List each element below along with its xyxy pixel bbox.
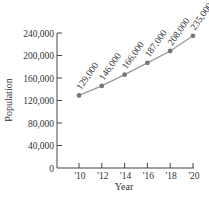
population-line-chart: 040,00080,000120,000160,000200,000240,00… bbox=[0, 0, 209, 197]
x-tick-label: '16 bbox=[143, 171, 154, 181]
y-tick-label: 40,000 bbox=[28, 141, 54, 151]
data-point-marker bbox=[99, 83, 104, 88]
x-tick-label: '14 bbox=[120, 171, 131, 181]
y-tick-label: 80,000 bbox=[28, 119, 54, 129]
data-point-marker bbox=[145, 60, 150, 65]
data-series: 129,000146,000166,000187,000208,000235,0… bbox=[74, 1, 209, 98]
data-point-marker bbox=[122, 72, 127, 77]
data-point-marker bbox=[77, 93, 82, 98]
x-tick-label: '12 bbox=[97, 171, 108, 181]
y-axis: 040,00080,000120,000160,000200,000240,00… bbox=[23, 29, 62, 174]
x-axis-label: Year bbox=[115, 181, 134, 192]
data-point-label: 235,000 bbox=[188, 1, 209, 32]
y-tick-label: 200,000 bbox=[23, 51, 54, 61]
y-tick-label: 0 bbox=[49, 164, 54, 174]
data-point-marker bbox=[191, 33, 196, 38]
y-tick-label: 120,000 bbox=[23, 96, 54, 106]
y-axis-label: Population bbox=[3, 78, 14, 121]
y-tick-label: 240,000 bbox=[23, 29, 54, 39]
x-axis: '10'12'14'16'18'20 bbox=[57, 163, 200, 181]
x-tick-label: '20 bbox=[188, 171, 199, 181]
x-tick-label: '10 bbox=[74, 171, 85, 181]
data-point-label: 208,000 bbox=[166, 16, 192, 47]
data-point-marker bbox=[168, 49, 173, 54]
x-tick-label: '18 bbox=[166, 171, 177, 181]
y-tick-label: 160,000 bbox=[23, 74, 54, 84]
